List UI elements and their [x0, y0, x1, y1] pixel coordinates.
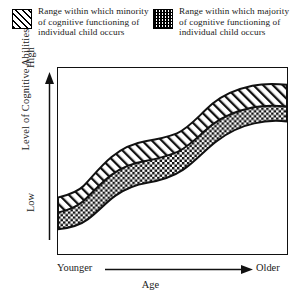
x-axis-arrow-icon [105, 264, 253, 275]
plot-area [57, 67, 288, 255]
checkerboard-hatch-swatch-icon [153, 9, 173, 29]
plot-clip [58, 68, 287, 254]
x-axis-start-label: Younger [57, 262, 92, 273]
y-axis-high-label: High [25, 47, 36, 68]
legend-label-minority: Range within which minority of cognitive… [38, 6, 150, 38]
cognitive-range-bands [58, 68, 287, 254]
y-axis-arrow-icon [44, 72, 55, 240]
x-axis-end-label: Older [256, 262, 280, 273]
figure-container: Range within which minority of cognitive… [0, 0, 301, 302]
legend-label-majority: Range within which majority of cognitive… [179, 6, 291, 38]
x-axis-title: Age [0, 279, 301, 290]
majority-band [58, 106, 287, 230]
y-axis-low-label: Low [25, 193, 36, 212]
y-axis-title: Level of Cognitive Abilities [20, 15, 31, 165]
legend: Range within which minority of cognitive… [0, 6, 301, 62]
